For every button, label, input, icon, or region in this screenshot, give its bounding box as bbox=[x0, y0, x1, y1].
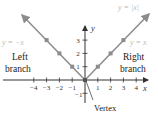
right-equation-label: y = x bbox=[129, 38, 147, 47]
right-branch-label-line1: Right bbox=[123, 52, 144, 62]
x-axis-label: x bbox=[142, 83, 147, 93]
x-tick-label: −3 bbox=[43, 84, 51, 92]
absolute-value-graph: −4−3−2−11234 123 y = |x| y = −x y = x Le… bbox=[0, 0, 158, 115]
data-point bbox=[96, 65, 100, 69]
vertex-pointer bbox=[86, 81, 93, 100]
y-tick-label-neg1: −1 bbox=[75, 91, 83, 99]
x-tick-label: −4 bbox=[30, 84, 38, 92]
function-label: y = |x| bbox=[117, 3, 139, 12]
y-tick-label: 3 bbox=[76, 37, 80, 45]
left-branch-label-line2: branch bbox=[5, 64, 31, 74]
x-tick-label: 3 bbox=[122, 84, 126, 92]
data-point bbox=[45, 38, 49, 42]
right-branch-label-line2: branch bbox=[120, 64, 146, 74]
data-point bbox=[57, 51, 61, 55]
x-tick-label: 4 bbox=[134, 84, 138, 92]
left-equation-label: y = −x bbox=[1, 38, 24, 47]
left-branch-label-line1: Left bbox=[12, 52, 28, 62]
x-tick-label: −2 bbox=[56, 84, 64, 92]
data-point bbox=[70, 65, 74, 69]
y-axis-label: y bbox=[90, 23, 95, 33]
x-tick-label: 1 bbox=[96, 84, 100, 92]
left-branch-line bbox=[22, 15, 85, 80]
data-point bbox=[121, 38, 125, 42]
x-tick-label: 2 bbox=[109, 84, 113, 92]
y-tick-label: 2 bbox=[76, 50, 80, 58]
data-point bbox=[109, 51, 113, 55]
y-tick-label: 1 bbox=[76, 63, 80, 71]
vertex-label: Vertex bbox=[94, 103, 117, 113]
